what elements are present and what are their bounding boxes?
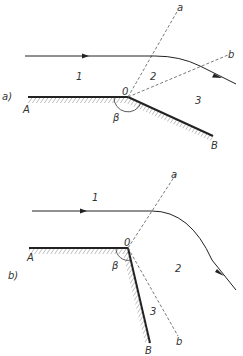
arrow-icon — [82, 54, 89, 59]
line-label-a: a — [171, 169, 177, 180]
point-label-b: B — [211, 140, 218, 151]
region-label: 3 — [195, 95, 201, 106]
region-label: 2 — [175, 263, 181, 274]
figure-tag: a) — [2, 91, 12, 102]
figure-a: a) 1 2 3 A 0 B a b β — [2, 2, 236, 151]
region-label: 2 — [150, 71, 156, 82]
angle-label: β — [111, 260, 119, 271]
wall-ob — [128, 248, 150, 343]
region-label: 1 — [92, 192, 98, 203]
point-label-o: 0 — [122, 86, 128, 97]
streamline-a — [25, 56, 236, 84]
line-label-b: b — [228, 49, 234, 60]
angle-label: β — [112, 112, 120, 123]
line-label-a: a — [177, 2, 183, 13]
mach-line-a — [128, 10, 178, 97]
flow-diagram: a) 1 2 3 A 0 B a b β b) 1 2 3 A 0 B a b … — [0, 0, 243, 356]
figure-tag: b) — [8, 270, 18, 281]
region-label: 3 — [150, 306, 156, 317]
line-label-b: b — [176, 336, 182, 347]
arrow-icon — [80, 209, 87, 214]
region-label: 1 — [76, 71, 82, 82]
point-label-o: 0 — [124, 237, 130, 248]
point-label-b: B — [145, 345, 152, 356]
point-label-a: A — [22, 104, 30, 115]
figure-b: b) 1 2 3 A 0 B a b β — [8, 169, 236, 356]
point-label-a: A — [26, 252, 34, 263]
